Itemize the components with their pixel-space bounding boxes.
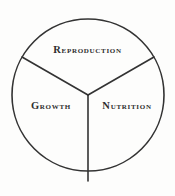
three-part-circle-diagram: Reproduction Growth Nutrition xyxy=(0,0,175,196)
sector-label-growth: Growth xyxy=(18,101,84,112)
diagram-canvas xyxy=(0,0,175,196)
divider-upper-left xyxy=(22,57,88,95)
sector-label-nutrition: Nutrition xyxy=(94,101,160,112)
sector-label-reproduction: Reproduction xyxy=(0,45,175,56)
divider-upper-right xyxy=(88,57,154,95)
